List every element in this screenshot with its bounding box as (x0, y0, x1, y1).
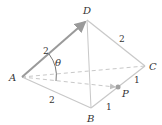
label-C: C (149, 61, 157, 72)
length-AB: 2 (49, 95, 55, 105)
label-P: P (121, 88, 129, 99)
length-CP: 1 (134, 75, 140, 85)
edge-DC (87, 20, 145, 66)
edge-AB (22, 77, 91, 108)
point-P (116, 85, 121, 90)
edge-DB (87, 20, 91, 108)
length-DC: 2 (119, 34, 125, 44)
label-theta: θ (55, 57, 61, 68)
edge-AC-hidden (22, 66, 145, 77)
vector-AD (22, 22, 85, 77)
length-AD: 2 (43, 46, 49, 56)
vector-AP (22, 77, 115, 87)
label-D: D (82, 5, 91, 16)
length-PB: 1 (106, 102, 112, 112)
label-B: B (86, 113, 94, 124)
tetrahedron-diagram: D A C B P θ 2 2 2 1 1 (0, 0, 162, 125)
label-A: A (8, 72, 16, 83)
